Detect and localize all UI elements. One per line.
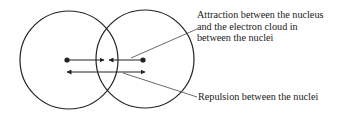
attraction-label-line-2: and the electron cloud in (197, 21, 323, 33)
attraction-label-line-1: Attraction between the nucleus (197, 9, 323, 21)
repulsion-label: Repulsion between the nuclei (198, 91, 318, 103)
attraction-label: Attraction between the nucleus and the e… (197, 9, 323, 44)
repulsion-label-line-1: Repulsion between the nuclei (198, 91, 318, 103)
attraction-label-line-3: between the nuclei (197, 32, 323, 44)
attraction-leader-line (131, 29, 197, 58)
